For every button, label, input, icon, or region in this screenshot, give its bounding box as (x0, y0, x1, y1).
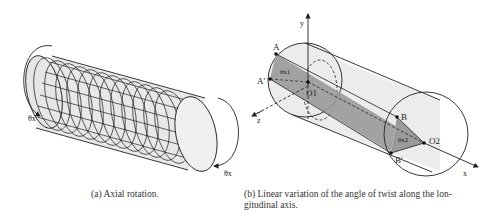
z-axis-label: z (257, 116, 261, 125)
theta-x1-label: θx1 (280, 68, 291, 76)
point-O2-label: O2 (429, 136, 440, 146)
point-A-prime-label: A' (257, 76, 265, 86)
figure-b-twist-angle: y z x A A' O1 B B' O2 θx1 θx2 (252, 14, 478, 178)
figure-a-axial-rotation: θx θx (20, 46, 239, 178)
figure-canvas: θx θx y z x (0, 0, 500, 219)
rotation-arrow-right (214, 98, 239, 166)
point-B-prime-label: B' (395, 155, 403, 165)
theta-right-label: θx (224, 169, 232, 178)
caption-b-line1: (b) Linear variation of the angle of twi… (244, 189, 484, 200)
caption-b-line2: gitudinal axis. (244, 200, 484, 211)
point-O1-label: O1 (306, 88, 317, 98)
y-axis-label: y (300, 19, 304, 28)
point-A-label: A (273, 42, 280, 52)
point-B-label: B (401, 112, 407, 122)
caption-a: (a) Axial rotation. (91, 189, 159, 200)
x-axis-label: x (463, 169, 467, 178)
caption-b: (b) Linear variation of the angle of twi… (244, 189, 484, 211)
theta-left-label: θx (28, 114, 36, 123)
theta-x2-label: θx2 (398, 136, 409, 144)
